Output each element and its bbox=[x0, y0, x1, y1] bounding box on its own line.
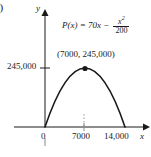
fraction-numerator-exponent: 2 bbox=[122, 15, 125, 21]
x-axis-tick-label-7000: 7000 bbox=[72, 132, 90, 141]
y-axis-label: y bbox=[36, 4, 40, 13]
fraction-numerator: x2 bbox=[116, 18, 127, 26]
x-axis-tick-label-14000: 14,000 bbox=[104, 132, 129, 141]
fraction-denominator: 200 bbox=[113, 27, 129, 35]
part-label: b) bbox=[0, 2, 3, 13]
y-axis-arrowhead bbox=[42, 9, 49, 16]
parabola-curve bbox=[45, 68, 125, 127]
y-axis-tick-label-245000: 245,000 bbox=[7, 62, 36, 71]
vertex-point-marker bbox=[82, 66, 87, 71]
equation-lhs: P(x) = 70x − bbox=[62, 21, 109, 30]
x-axis-arrowhead bbox=[143, 124, 150, 131]
x-axis-tick-label-0: 0 bbox=[41, 132, 46, 141]
equation-fraction: x2 200 bbox=[113, 18, 129, 35]
x-axis-label: x bbox=[140, 132, 144, 141]
equation-label: P(x) = 70x − x2 200 bbox=[62, 17, 129, 34]
parabola-figure: b) y x P(x) = 70x − x2 200 (7000, 245,00… bbox=[0, 0, 151, 157]
vertex-coordinate-label: (7000, 245,000) bbox=[57, 50, 115, 59]
